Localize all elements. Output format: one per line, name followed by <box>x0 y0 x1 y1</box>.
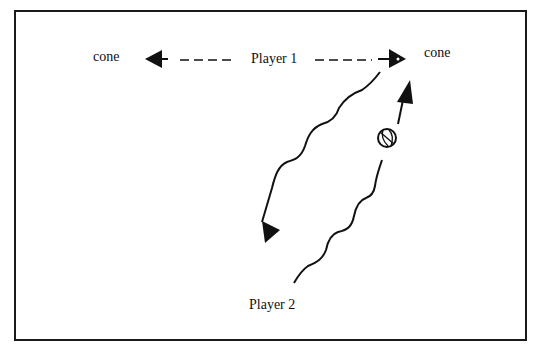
wavy-dribble-path <box>294 160 382 283</box>
down-left-arrowhead-icon <box>262 221 280 243</box>
cone-left-label: cone <box>93 50 119 64</box>
player1-label: Player 1 <box>251 52 297 66</box>
left-arrowhead-icon <box>145 50 168 68</box>
up-right-arrowhead-icon <box>397 80 413 104</box>
player2-label: Player 2 <box>249 298 295 312</box>
cone-right-label: cone <box>424 46 450 60</box>
right-arrowhead-icon <box>378 49 406 68</box>
ball-to-cone-line <box>398 100 403 124</box>
basketball-icon <box>378 129 396 147</box>
